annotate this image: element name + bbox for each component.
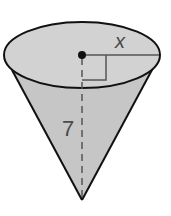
- center-point: [78, 51, 86, 59]
- cone-diagram: x 7: [0, 0, 171, 216]
- height-label: 7: [62, 116, 74, 141]
- radius-label: x: [114, 30, 126, 52]
